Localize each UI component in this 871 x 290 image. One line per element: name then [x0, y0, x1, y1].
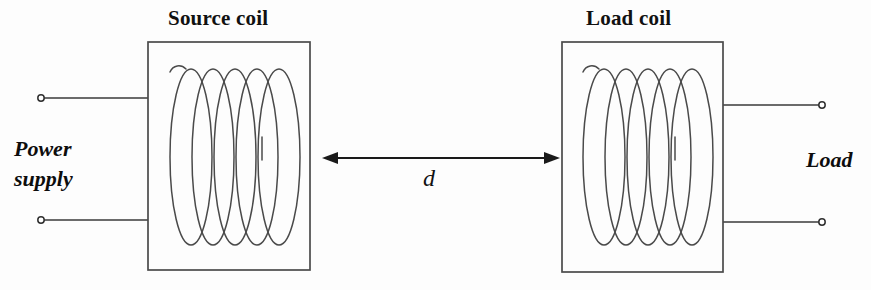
power-supply-label: Power supply	[14, 134, 73, 194]
source-top-terminal-icon	[38, 95, 44, 101]
distance-arrow-head-right-icon	[544, 152, 560, 164]
distance-arrow-head-left-icon	[322, 152, 338, 164]
load-label: Load	[806, 145, 852, 175]
load-coil-winding-icon	[583, 66, 713, 245]
source-coil-box	[148, 42, 310, 270]
source-coil-title: Source coil	[168, 6, 268, 31]
load-top-terminal-icon	[819, 102, 825, 108]
source-bottom-terminal-icon	[38, 217, 44, 223]
load-bottom-terminal-icon	[819, 219, 825, 225]
power-supply-label-line2: supply	[14, 164, 73, 194]
distance-arrow	[322, 152, 560, 164]
source-coil-winding-icon	[170, 66, 300, 245]
distance-label: d	[423, 165, 435, 192]
diagram-canvas	[0, 0, 871, 290]
load-coil-box	[562, 42, 723, 272]
power-supply-label-line1: Power	[14, 134, 73, 164]
wireless-power-transfer-diagram: Source coil Load coil Power supply Load …	[0, 0, 871, 290]
load-coil-title: Load coil	[586, 6, 671, 31]
